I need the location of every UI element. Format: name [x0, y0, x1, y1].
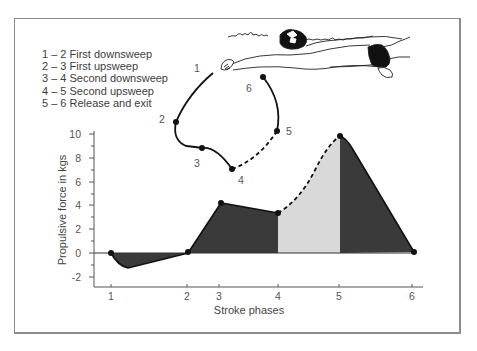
force-point-2 — [185, 249, 191, 255]
force-area-light — [278, 136, 340, 253]
svg-text:6: 6 — [75, 176, 81, 188]
force-chart: 10 8 6 4 2 0 -2 Propulsive force in kgs … — [56, 128, 423, 316]
force-point-6 — [411, 249, 417, 255]
stroke-point-3 — [199, 145, 205, 151]
y-tick-labels: 10 8 6 4 2 0 -2 — [69, 128, 81, 283]
svg-text:6: 6 — [409, 290, 415, 302]
stroke-label-5: 5 — [286, 125, 292, 137]
svg-text:2: 2 — [75, 223, 81, 235]
svg-text:4: 4 — [75, 199, 81, 211]
svg-text:3: 3 — [216, 290, 222, 302]
stroke-label-2: 2 — [159, 113, 165, 125]
force-area-dark-2 — [340, 136, 414, 253]
stroke-label-4: 4 — [238, 174, 244, 186]
stroke-label-6: 6 — [246, 82, 252, 94]
stroke-label-3: 3 — [194, 157, 200, 169]
force-point-1 — [108, 250, 114, 256]
y-axis — [89, 131, 94, 287]
stroke-point-5 — [274, 128, 280, 134]
stroke-point-2 — [173, 119, 179, 125]
stroke-label-1: 1 — [194, 62, 200, 74]
y-axis-title: Propulsive force in kgs — [56, 154, 68, 265]
svg-text:2: 2 — [184, 290, 190, 302]
x-axis — [94, 284, 423, 287]
stroke-point-6 — [260, 74, 266, 80]
force-area-dark-1 — [111, 203, 278, 268]
swimmer-illustration-icon — [221, 30, 410, 78]
force-point-3 — [218, 200, 224, 206]
figure-canvas: 1 2 3 4 5 6 — [0, 0, 477, 351]
force-point-5 — [337, 133, 343, 139]
svg-text:10: 10 — [69, 128, 81, 140]
svg-text:8: 8 — [75, 152, 81, 164]
svg-text:-2: -2 — [72, 271, 81, 283]
x-tick-labels: 1 2 3 4 5 6 — [108, 290, 415, 302]
force-point-4 — [275, 210, 281, 216]
stroke-path-diagram: 1 2 3 4 5 6 — [159, 62, 292, 186]
svg-text:1: 1 — [108, 290, 114, 302]
stroke-point-4 — [229, 166, 235, 172]
svg-text:0: 0 — [75, 247, 81, 259]
x-axis-title: Stroke phases — [214, 304, 285, 316]
svg-text:4: 4 — [275, 290, 281, 302]
svg-text:5: 5 — [336, 290, 342, 302]
